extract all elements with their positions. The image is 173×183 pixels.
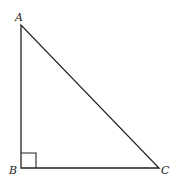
vertex-label-b: B [8, 164, 17, 177]
vertex-label-a: A [14, 11, 23, 24]
triangle-diagram: A B C [0, 0, 173, 183]
vertex-label-c: C [161, 164, 170, 177]
